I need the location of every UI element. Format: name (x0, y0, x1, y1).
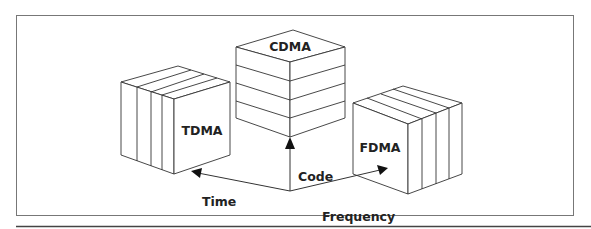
time-arrow-icon (191, 168, 202, 178)
code-arrow-icon (285, 137, 295, 149)
multiple-access-diagram: CDMA TDMA FDMA (0, 0, 591, 229)
tdma-cube (121, 66, 230, 174)
time-axis-label: Time (202, 194, 236, 209)
code-axis-label: Code (298, 169, 333, 184)
frequency-axis-label: Frequency (322, 209, 395, 224)
fdma-label: FDMA (359, 140, 400, 155)
time-axis (198, 173, 290, 191)
cdma-label: CDMA (269, 39, 311, 54)
tdma-label: TDMA (181, 123, 222, 138)
